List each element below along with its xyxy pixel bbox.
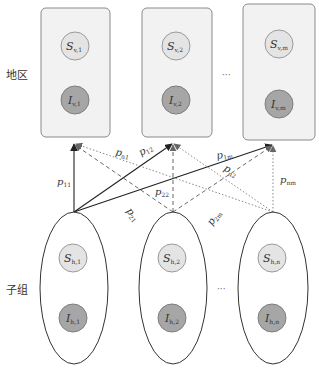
edge-label-p21: p21 — [124, 205, 142, 223]
region-box-m: Sv,m Iv,m — [243, 4, 315, 140]
subgroup-ellipsis: ··· — [217, 284, 226, 294]
region-box-2: Sv,2 Iv,2 — [142, 8, 212, 137]
subgroup-1: Sh,1 Ih,1 — [40, 212, 108, 364]
region-box-1: Sv,1 Iv,1 — [41, 8, 110, 137]
edge-label-p12: p12 — [137, 141, 155, 159]
edge-label-pnm: pnm — [280, 174, 296, 186]
edge-label-p22: p22 — [155, 186, 169, 198]
edge-label-p1m: p1m — [215, 147, 233, 162]
subgroup-2: Sh,2 Ih,2 — [139, 212, 207, 364]
edge-label-pn1: pn1 — [114, 146, 130, 161]
region-ellipsis: ··· — [222, 70, 231, 80]
diagram-canvas: 地区 子组 Sv,1 Iv,1 Sv,2 Iv,2 ··· Sv,m Iv,m — [0, 0, 319, 371]
subgroup-row-label: 子组 — [6, 283, 28, 297]
edge-label-pn2: pn2 — [222, 162, 240, 180]
region-row-label: 地区 — [6, 69, 28, 82]
subgroup-n: Sh,n Ih,n — [238, 212, 308, 364]
edge-label-p11: p11 — [57, 176, 71, 188]
edge-label-p2m: p2m — [205, 208, 224, 228]
